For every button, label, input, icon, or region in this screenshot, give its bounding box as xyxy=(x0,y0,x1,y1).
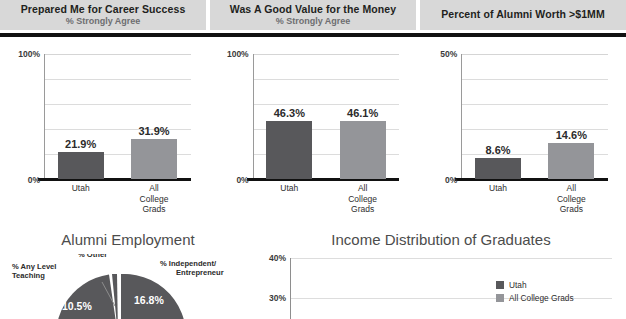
x-label-all-grads: All College Grads xyxy=(548,183,594,215)
plot-area: 100% 0% 46.3% 46.1% xyxy=(253,54,400,179)
pie-value-teaching: 10.5% xyxy=(62,300,92,312)
header-panel-good-value: Was A Good Value for the Money % Strongl… xyxy=(210,0,416,30)
x-label-line-2: College xyxy=(340,194,386,205)
y-tick-top: 100% xyxy=(227,49,249,59)
x-label-text: Utah xyxy=(280,183,298,193)
bar-utah xyxy=(58,152,104,179)
income-distribution-chart: 40% 30% Utah All College Grads xyxy=(256,252,626,319)
bar-group-all-grads: 46.1% xyxy=(340,54,386,179)
pie-label-independent-line-2: Entrepreneur xyxy=(160,268,224,277)
bar-all-grads xyxy=(131,139,177,179)
legend-item-utah: Utah xyxy=(496,280,574,290)
bar-value-label: 46.1% xyxy=(347,107,378,119)
bars: 21.9% 31.9% xyxy=(44,54,191,179)
y-tick-bottom: 0% xyxy=(236,175,248,185)
pie-value-independent: 16.8% xyxy=(134,294,164,306)
pie-label-teaching: % Any Level Teaching xyxy=(12,262,56,280)
y-tick-top: 50% xyxy=(440,49,457,59)
legend-label-utah: Utah xyxy=(509,280,527,290)
x-label-line-2: College xyxy=(131,194,177,205)
plot-area: 100% 0% 21.9% 31.9% xyxy=(44,54,191,179)
x-label-line-2: College xyxy=(548,194,594,205)
income-gridline-40 xyxy=(290,258,612,259)
plot-area: 50% 0% 8.6% 14.6% xyxy=(461,54,608,179)
x-label-line-3: Grads xyxy=(548,204,594,215)
x-label-all-grads: All College Grads xyxy=(340,183,386,215)
bar-group-all-grads: 31.9% xyxy=(131,54,177,179)
bar-value-label: 31.9% xyxy=(138,125,169,137)
bar-chart-row: 100% 0% 21.9% 31.9% Utah xyxy=(0,40,626,230)
pie-label-other: % Other xyxy=(78,254,107,259)
pie-chart-title: Alumni Employment xyxy=(0,231,256,248)
header-subtitle: % Strongly Agree xyxy=(276,16,351,26)
x-label-utah: Utah xyxy=(58,183,104,215)
bar-value-label: 46.3% xyxy=(274,107,305,119)
legend-label-all-grads: All College Grads xyxy=(509,293,574,303)
x-label-all-grads: All College Grads xyxy=(131,183,177,215)
header-title: Was A Good Value for the Money xyxy=(230,4,396,16)
x-label-utah: Utah xyxy=(266,183,312,215)
x-axis-labels: Utah All College Grads xyxy=(253,183,400,215)
header-title: Prepared Me for Career Success xyxy=(21,4,186,16)
chart-good-value: 100% 0% 46.3% 46.1% Utah xyxy=(209,40,418,230)
income-y-tick-30: 30% xyxy=(269,293,286,303)
x-label-line-1: All xyxy=(548,183,594,194)
bar-value-label: 8.6% xyxy=(485,144,510,156)
x-label-utah: Utah xyxy=(475,183,521,215)
bar-group-utah: 21.9% xyxy=(58,54,104,179)
pie-label-independent: % Independent/ Entrepreneur xyxy=(160,259,224,277)
x-label-line-3: Grads xyxy=(340,204,386,215)
income-chart-title: Income Distribution of Graduates xyxy=(256,231,626,248)
bars: 46.3% 46.1% xyxy=(253,54,400,179)
bar-group-utah: 46.3% xyxy=(266,54,312,179)
header-panel-career-success: Prepared Me for Career Success % Strongl… xyxy=(0,0,206,30)
x-label-line-3: Grads xyxy=(131,204,177,215)
x-label-line-1: All xyxy=(340,183,386,194)
header-band: Prepared Me for Career Success % Strongl… xyxy=(0,0,626,30)
header-subtitle: % Strongly Agree xyxy=(66,16,141,26)
bar-all-grads xyxy=(548,143,594,180)
pie-label-teaching-line-2: Teaching xyxy=(12,271,56,280)
income-y-axis xyxy=(290,258,291,319)
bar-utah xyxy=(266,121,312,179)
legend-swatch-utah xyxy=(496,281,504,289)
bar-value-label: 21.9% xyxy=(65,138,96,150)
income-legend: Utah All College Grads xyxy=(496,280,574,306)
pie-label-teaching-line-1: % Any Level xyxy=(12,262,56,271)
x-label-line-1: All xyxy=(131,183,177,194)
chart-alumni-worth: 50% 0% 8.6% 14.6% Utah xyxy=(417,40,626,230)
x-axis-labels: Utah All College Grads xyxy=(44,183,191,215)
bar-group-utah: 8.6% xyxy=(475,54,521,179)
income-y-tick-40: 40% xyxy=(269,253,286,263)
bottom-section: Alumni Employment Income Distribution of… xyxy=(0,228,626,319)
pie-label-independent-line-1: % Independent/ xyxy=(160,259,224,268)
x-axis-labels: Utah All College Grads xyxy=(461,183,608,215)
chart-career-success: 100% 0% 21.9% 31.9% Utah xyxy=(0,40,209,230)
x-label-text: Utah xyxy=(72,183,90,193)
bar-group-all-grads: 14.6% xyxy=(548,54,594,179)
bar-utah xyxy=(475,158,521,180)
header-panel-alumni-worth: Percent of Alumni Worth >$1MM xyxy=(420,0,626,30)
y-tick-bottom: 0% xyxy=(28,175,40,185)
pie-slice-teaching xyxy=(56,275,118,319)
header-title: Percent of Alumni Worth >$1MM xyxy=(441,9,605,21)
bar-all-grads xyxy=(340,121,386,179)
income-plot-area: 40% 30% Utah All College Grads xyxy=(290,258,612,319)
bars: 8.6% 14.6% xyxy=(461,54,608,179)
y-tick-top: 100% xyxy=(18,49,40,59)
alumni-employment-pie: % Any Level Teaching % Other % Independe… xyxy=(0,254,256,319)
legend-item-all-grads: All College Grads xyxy=(496,293,574,303)
infographic-page: Prepared Me for Career Success % Strongl… xyxy=(0,0,626,319)
x-label-text: Utah xyxy=(489,183,507,193)
legend-swatch-all-grads xyxy=(496,294,504,302)
header-divider-rule xyxy=(0,33,626,37)
bar-value-label: 14.6% xyxy=(556,129,587,141)
y-tick-bottom: 0% xyxy=(445,175,457,185)
